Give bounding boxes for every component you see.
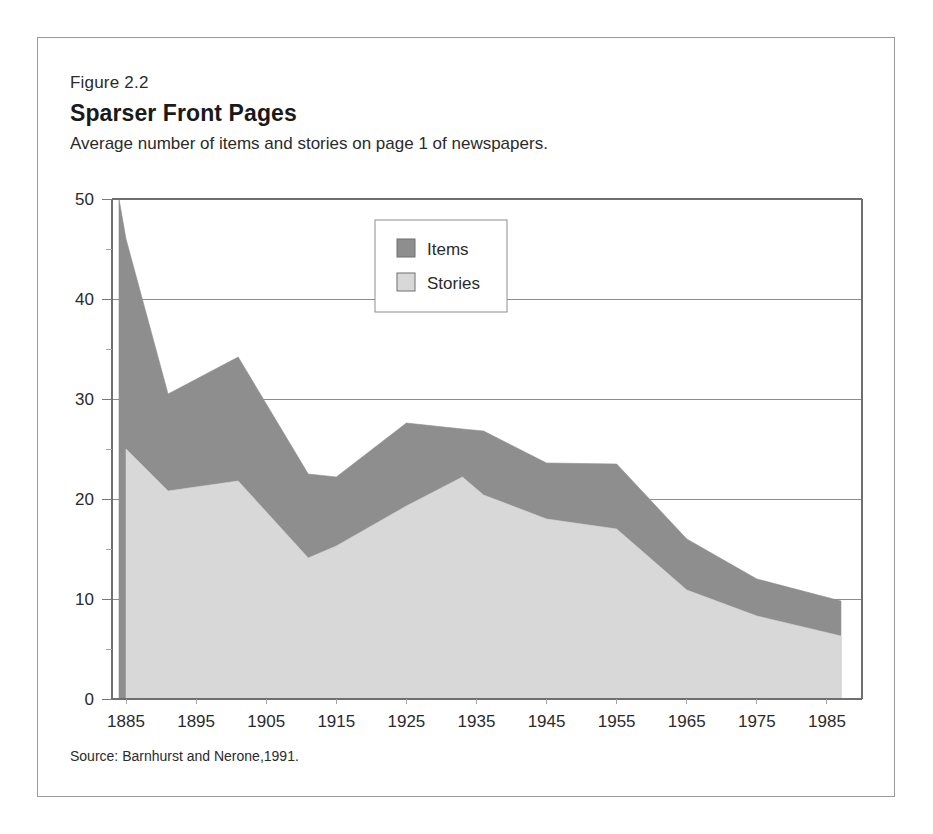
x-tick-label-1945: 1945: [528, 712, 566, 731]
legend-label-stories: Stories: [427, 274, 480, 293]
x-tick-label-1885: 1885: [107, 712, 145, 731]
chart-legend: ItemsStories: [375, 220, 507, 312]
figure-root: Figure 2.2 Sparser Front Pages Average n…: [0, 0, 933, 834]
y-tick-labels: 01020304050: [75, 190, 94, 709]
x-tick-label-1905: 1905: [247, 712, 285, 731]
x-tick-label-1985: 1985: [808, 712, 846, 731]
legend-label-items: Items: [427, 240, 469, 259]
x-tick-label-1895: 1895: [177, 712, 215, 731]
figure-title: Sparser Front Pages: [70, 98, 850, 128]
chart-svg: 01020304050 1885189519051915192519351945…: [37, 150, 895, 750]
legend-swatch-stories: [397, 273, 415, 291]
figure-source-note: Source: Barnhurst and Nerone,1991.: [70, 747, 299, 765]
area-chart: 01020304050 1885189519051915192519351945…: [37, 150, 895, 750]
legend-box: [375, 220, 507, 312]
y-tick-label-0: 0: [85, 690, 94, 709]
y-tick-label-50: 50: [75, 190, 94, 209]
y-tick-label-10: 10: [75, 590, 94, 609]
y-tick-label-30: 30: [75, 390, 94, 409]
x-tick-label-1975: 1975: [738, 712, 776, 731]
x-tick-label-1955: 1955: [598, 712, 636, 731]
figure-header: Figure 2.2 Sparser Front Pages Average n…: [70, 72, 850, 156]
legend-swatch-items: [397, 239, 415, 257]
x-tick-label-1965: 1965: [668, 712, 706, 731]
x-tick-label-1925: 1925: [387, 712, 425, 731]
y-tick-label-40: 40: [75, 290, 94, 309]
x-tick-label-1935: 1935: [458, 712, 496, 731]
y-tick-label-20: 20: [75, 490, 94, 509]
x-tick-label-1915: 1915: [317, 712, 355, 731]
x-tick-labels: 1885189519051915192519351945195519651975…: [107, 712, 846, 731]
figure-number: Figure 2.2: [70, 72, 850, 94]
